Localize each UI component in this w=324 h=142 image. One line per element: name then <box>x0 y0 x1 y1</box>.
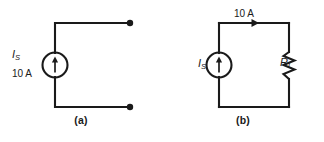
source-label-b: IS <box>198 53 206 71</box>
figure-canvas: IS 10 A (a) <box>0 0 324 142</box>
wire-top-a <box>55 23 130 53</box>
caption-b: (b) <box>162 114 324 126</box>
current-direction-arrow-b <box>252 19 260 27</box>
caption-a: (a) <box>0 114 162 126</box>
circuit-panel-b: IS RL 10 A (b) <box>162 0 324 142</box>
current-source-arrow-b <box>216 57 222 73</box>
terminal-dot-bottom-a <box>127 104 133 110</box>
current-source-arrow-a <box>52 57 58 73</box>
circuit-panel-a: IS 10 A (a) <box>0 0 162 142</box>
source-subscript-b: S <box>201 62 206 71</box>
resistor-symbol-b: R <box>280 56 288 68</box>
wire-bottom-a <box>55 77 130 107</box>
source-value-a: 10 A <box>12 68 32 79</box>
source-label-a: IS 10 A <box>12 44 32 81</box>
source-subscript-a: S <box>15 53 20 62</box>
resistor-subscript-b: L <box>288 61 292 70</box>
current-value-label-b: 10 A <box>234 8 254 19</box>
terminal-dot-top-a <box>127 20 133 26</box>
resistor-label-b: RL <box>280 52 292 70</box>
